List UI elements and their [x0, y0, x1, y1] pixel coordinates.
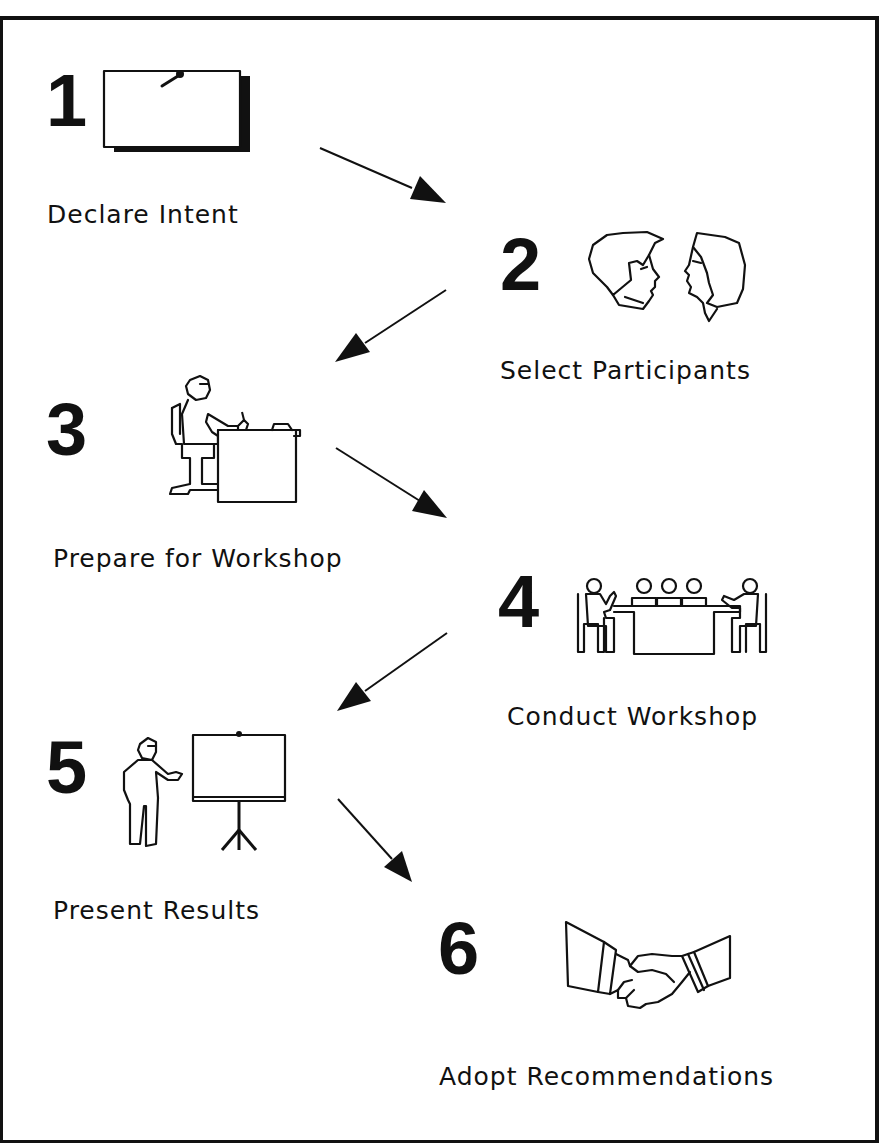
arrow-3-to-4: [336, 448, 447, 518]
step-4-number: 4: [498, 565, 539, 639]
step-1-label: Declare Intent: [47, 200, 239, 229]
step-3-label: Prepare for Workshop: [53, 544, 343, 573]
step-5-number: 5: [46, 731, 87, 805]
step-5-label: Present Results: [53, 896, 260, 925]
presenter-easel-icon: [120, 730, 290, 852]
step-1-number: 1: [46, 64, 87, 138]
person-at-desk-icon: [168, 374, 302, 506]
handshake-icon: [562, 920, 737, 1012]
meeting-table-icon: [574, 576, 770, 656]
step-2-label: Select Participants: [500, 356, 751, 385]
arrow-2-to-3: [335, 290, 446, 362]
arrow-4-to-5: [337, 633, 447, 711]
arrow-1-to-2: [320, 148, 446, 203]
step-6-label: Adopt Recommendations: [439, 1062, 774, 1091]
two-heads-icon: [585, 225, 765, 325]
step-4-label: Conduct Workshop: [507, 702, 758, 731]
step-6-number: 6: [438, 912, 479, 986]
step-2-number: 2: [500, 228, 541, 302]
step-3-number: 3: [46, 393, 87, 467]
arrow-5-to-6: [338, 799, 412, 882]
memo-board-icon: [100, 62, 252, 157]
